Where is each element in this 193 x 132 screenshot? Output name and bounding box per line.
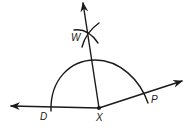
vertex-x-dot (97, 106, 101, 110)
angle-bisector-diagram: W D X P (0, 0, 193, 132)
label-d: D (40, 111, 47, 122)
ray-xd (11, 106, 99, 108)
ray-xp (99, 81, 182, 108)
label-x: X (95, 112, 103, 123)
construction-arc (51, 60, 148, 111)
ray-xw (83, 3, 99, 108)
label-w: W (71, 32, 82, 43)
label-p: P (151, 94, 158, 105)
